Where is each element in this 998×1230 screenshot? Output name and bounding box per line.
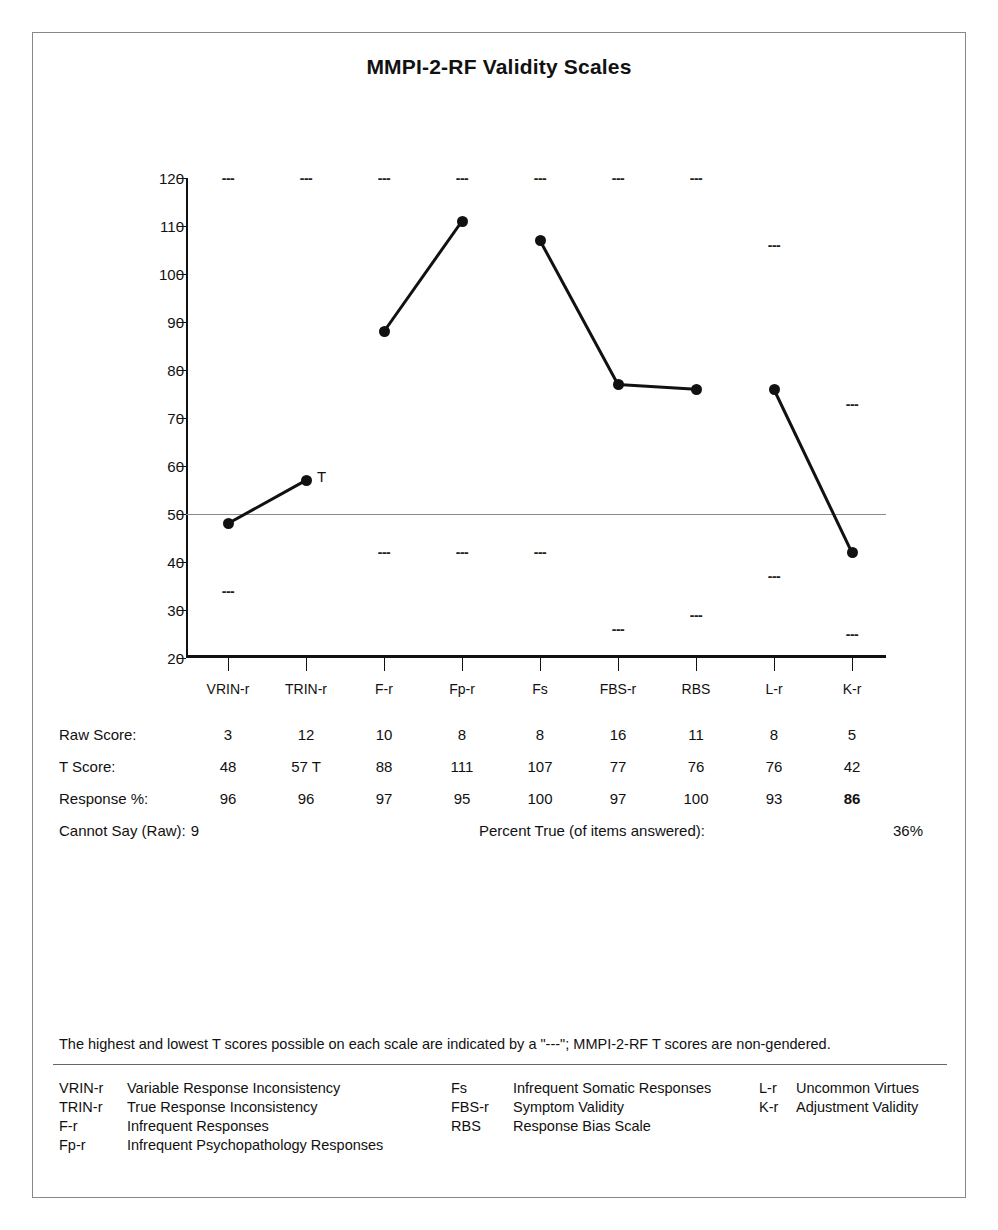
min-score-marker: --- [846,627,859,641]
data-point-l-r[interactable] [769,384,780,395]
x-tick [696,658,697,671]
y-tick-label: 60 [124,459,184,474]
legend-name: Symptom Validity [513,1098,624,1117]
table-cell: 93 [766,790,783,807]
legend-abbr: K-r [759,1098,796,1117]
legend-name: Adjustment Validity [796,1098,918,1117]
min-score-marker: --- [612,622,625,636]
table-cell: 57 T [291,758,321,775]
x-axis-label-k-r: K-r [843,681,862,697]
x-axis-label-fs: Fs [532,681,548,697]
y-tick-label: 50 [124,507,184,522]
percent-true-value: 36% [893,822,923,839]
report-page: MMPI-2-RF Validity Scales 20304050607080… [32,32,966,1198]
y-tick-label: 40 [124,555,184,570]
x-axis-line [186,655,886,658]
x-axis-label-f-r: F-r [375,681,393,697]
max-score-marker: --- [768,238,781,252]
max-score-marker: --- [690,171,703,185]
x-tick [228,658,229,671]
y-tick-label: 30 [124,603,184,618]
table-row: Response %:96969795100971009386 [59,787,949,819]
y-tick-label: 20 [124,651,184,666]
table-cell: 100 [527,790,552,807]
table-cell: 11 [688,726,704,743]
max-score-marker: --- [456,171,469,185]
data-point-k-r[interactable] [847,547,858,558]
legend-abbr: L-r [759,1079,796,1098]
min-score-marker: --- [456,545,469,559]
x-axis-label-trin-r: TRIN-r [285,681,327,697]
max-score-marker: --- [612,171,625,185]
data-point-vrin-r[interactable] [223,518,234,529]
min-score-marker: --- [222,584,235,598]
legend-column-1: VRIN-rVariable Response InconsistencyTRI… [59,1079,383,1155]
table-cell: 77 [610,758,627,775]
data-point-fp-r[interactable] [457,216,468,227]
legend-item: FsInfrequent Somatic Responses [451,1079,711,1098]
legend-column-3: L-rUncommon VirtuesK-rAdjustment Validit… [759,1079,919,1117]
table-cell: 100 [683,790,708,807]
x-tick [774,658,775,671]
x-axis-label-fbs-r: FBS-r [600,681,637,697]
data-point-trin-r[interactable] [301,475,312,486]
legend-item: FBS-rSymptom Validity [451,1098,711,1117]
data-point-rbs[interactable] [691,384,702,395]
x-axis-label-l-r: L-r [765,681,782,697]
y-tick-label: 110 [124,219,184,234]
min-score-marker: --- [768,569,781,583]
legend-abbr: Fs [451,1079,513,1098]
footnote-text: The highest and lowest T scores possible… [59,1036,831,1052]
legend-name: Infrequent Somatic Responses [513,1079,711,1098]
legend-item: RBSResponse Bias Scale [451,1117,711,1136]
max-score-marker: --- [300,171,313,185]
table-cell: 76 [766,758,783,775]
max-score-marker: --- [378,171,391,185]
table-cell: 97 [376,790,393,807]
legend-name: Infrequent Responses [127,1117,269,1136]
table-row: Raw Score:3121088161185 [59,723,949,755]
legend-abbr: TRIN-r [59,1098,127,1117]
legend-item: F-rInfrequent Responses [59,1117,383,1136]
profile-segment [383,220,463,332]
min-score-marker: --- [690,608,703,622]
min-score-marker: --- [378,545,391,559]
table-cell: 86 [844,790,861,807]
profile-segment [227,479,306,525]
legend-item: Fp-rInfrequent Psychopathology Responses [59,1136,383,1155]
legend-name: Variable Response Inconsistency [127,1079,340,1098]
data-point-f-r[interactable] [379,326,390,337]
x-axis-label-fp-r: Fp-r [449,681,475,697]
x-tick [462,658,463,671]
legend-name: Response Bias Scale [513,1117,651,1136]
profile-segment [773,389,854,553]
x-tick [540,658,541,671]
y-tick-label: 70 [124,411,184,426]
x-tick [306,658,307,671]
y-axis-line [186,178,188,658]
y-tick-label: 80 [124,363,184,378]
score-table: Raw Score:3121088161185T Score:4857 T881… [59,723,949,861]
table-cell: 8 [536,726,544,743]
summary-row: Cannot Say (Raw): 9 Percent True (of ite… [59,819,949,861]
max-score-marker: --- [534,171,547,185]
legend-divider [53,1064,947,1065]
legend-name: Infrequent Psychopathology Responses [127,1136,383,1155]
legend-abbr: RBS [451,1117,513,1136]
legend-item: TRIN-rTrue Response Inconsistency [59,1098,383,1117]
legend-name: Uncommon Virtues [796,1079,919,1098]
data-point-fbs-r[interactable] [613,379,624,390]
legend-item: L-rUncommon Virtues [759,1079,919,1098]
data-point-fs[interactable] [535,235,546,246]
table-cell: 8 [770,726,778,743]
table-cell: 42 [844,758,861,775]
legend-abbr: F-r [59,1117,127,1136]
min-score-marker: --- [534,545,547,559]
legend-abbr: FBS-r [451,1098,513,1117]
legend-item: K-rAdjustment Validity [759,1098,919,1117]
y-tick-label: 120 [124,171,184,186]
table-cell: 5 [848,726,856,743]
legend-item: VRIN-rVariable Response Inconsistency [59,1079,383,1098]
legend-name: True Response Inconsistency [127,1098,317,1117]
table-cell: 10 [376,726,393,743]
